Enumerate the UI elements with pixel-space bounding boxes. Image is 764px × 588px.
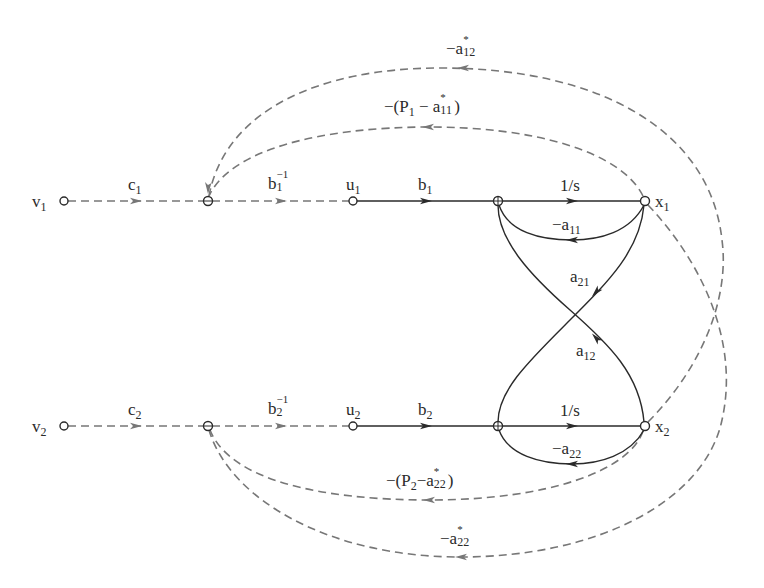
label-c2: c2 bbox=[128, 401, 142, 421]
label-p1-feedback: −(P1 − a*11) bbox=[384, 98, 460, 118]
label-b1: b1 bbox=[418, 176, 433, 196]
label-c1: c1 bbox=[128, 176, 142, 196]
node-v2 bbox=[60, 422, 68, 430]
edge-a21 bbox=[498, 205, 644, 422]
edge-a12-star-feedback bbox=[209, 68, 723, 422]
edge-a22-star-feedback bbox=[209, 205, 726, 557]
label-b1-inverse: b−11 bbox=[268, 175, 291, 192]
node-x2 bbox=[641, 422, 650, 431]
node-u1 bbox=[349, 197, 357, 205]
label-a22-star: −a*22 bbox=[440, 530, 471, 547]
label-integrator-2: 1/s bbox=[560, 402, 580, 419]
label-v2: v2 bbox=[32, 418, 47, 438]
label-integrator-1: 1/s bbox=[560, 177, 580, 194]
label-a22: −a22 bbox=[552, 440, 581, 460]
node-v1 bbox=[60, 197, 68, 205]
label-a21: a21 bbox=[570, 268, 590, 288]
signal-flow-graph bbox=[0, 0, 764, 588]
label-u1: u1 bbox=[346, 176, 361, 196]
label-u2: u2 bbox=[346, 401, 361, 421]
label-b2: b2 bbox=[418, 401, 433, 421]
label-x1: x1 bbox=[655, 193, 670, 213]
label-a12: a12 bbox=[576, 342, 596, 362]
node-u2 bbox=[349, 422, 357, 430]
label-v1: v1 bbox=[32, 193, 47, 213]
arrow-p2 bbox=[423, 497, 435, 503]
edge-a12 bbox=[498, 205, 644, 422]
label-p2-feedback: −(P2−a*22) bbox=[386, 472, 454, 492]
label-x2: x2 bbox=[655, 418, 670, 438]
node-x1 bbox=[641, 197, 650, 206]
label-a12-star: −a*12 bbox=[446, 40, 477, 57]
label-a11: −a11 bbox=[552, 216, 581, 236]
label-b2-inverse: b−12 bbox=[268, 400, 291, 417]
arrow-a21 bbox=[590, 285, 603, 298]
arrow-p1 bbox=[422, 124, 434, 130]
